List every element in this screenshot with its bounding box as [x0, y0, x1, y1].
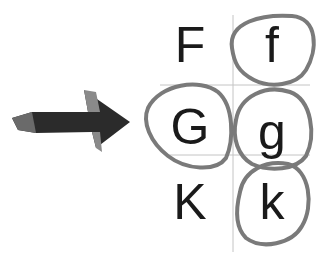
letter-g: g — [258, 107, 286, 157]
letter-F: F — [175, 20, 206, 70]
letter-k: k — [260, 177, 285, 227]
figure-canvas: F f G g K k — [0, 0, 326, 262]
arrow-right-icon — [12, 90, 130, 152]
letter-G: G — [171, 102, 210, 152]
letter-f: f — [265, 20, 279, 70]
letter-K: K — [173, 177, 206, 227]
